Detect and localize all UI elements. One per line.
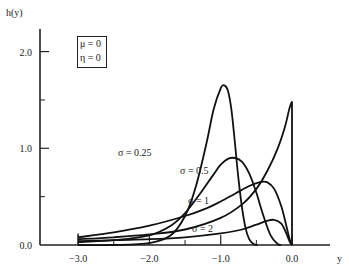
y-tick-label: 1.0 <box>20 143 33 154</box>
series-label: σ = 2 <box>192 223 213 234</box>
y-axis-label: h(y) <box>6 7 23 19</box>
x-tick-label: −1.0 <box>212 253 230 264</box>
chart: −3.0−2.0−1.00.00.01.02.0h(y)yσ = 0.25σ =… <box>0 0 349 278</box>
x-axis-label: y <box>337 253 342 264</box>
series-label: σ = 0.5 <box>180 165 209 176</box>
legend-eta: η = 0 <box>80 51 104 65</box>
series-label: σ = 1 <box>188 195 209 206</box>
y-tick-label: 0.0 <box>20 240 33 251</box>
x-tick-label: −3.0 <box>69 253 87 264</box>
legend-mu: μ = 0 <box>80 37 104 51</box>
legend-box: μ = 0 η = 0 <box>77 36 107 68</box>
x-tick-label: −2.0 <box>140 253 158 264</box>
series-label: σ = 0.25 <box>118 147 152 158</box>
y-tick-label: 2.0 <box>20 47 33 58</box>
x-tick-label: 0.0 <box>286 253 299 264</box>
